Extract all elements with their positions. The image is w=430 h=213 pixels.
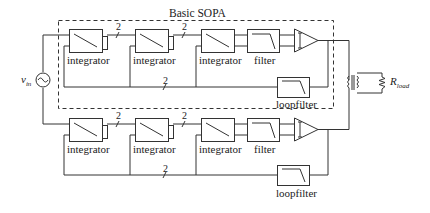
bus-width-label: 2 (182, 111, 187, 121)
top-amplifier (295, 29, 319, 52)
bottom-filter-label: filter (254, 144, 275, 155)
bottom-integrator-1-label: integrator (67, 144, 110, 155)
bus-width-label: 2 (116, 111, 121, 121)
load-resistor-icon (379, 77, 385, 89)
diagram-svg (0, 0, 430, 213)
ac-source-icon (36, 73, 50, 87)
bottom-integrator-3-label: integrator (199, 144, 242, 155)
top-integrator-1-label: integrator (67, 55, 110, 66)
bus-width-label: 2 (163, 164, 168, 174)
top-filter-label: filter (254, 55, 275, 66)
bus-width-label: 2 (182, 22, 187, 32)
top-loopfilter-label: loopfilter (276, 99, 317, 110)
sopa-block-diagram: Basic SOPA vin Rload integrator integrat… (0, 0, 430, 213)
top-integrator-2-label: integrator (133, 55, 176, 66)
top-integrator-3-label: integrator (199, 55, 242, 66)
bottom-integrator-2-label: integrator (133, 144, 176, 155)
source-label: vin (21, 74, 31, 88)
bottom-amplifier (295, 118, 319, 141)
basic-sopa-title: Basic SOPA (169, 8, 226, 20)
bottom-loopfilter-label: loopfilter (276, 188, 317, 199)
bus-width-label: 2 (116, 22, 121, 32)
load-label: Rload (390, 76, 409, 90)
bus-width-label: 2 (163, 76, 168, 86)
